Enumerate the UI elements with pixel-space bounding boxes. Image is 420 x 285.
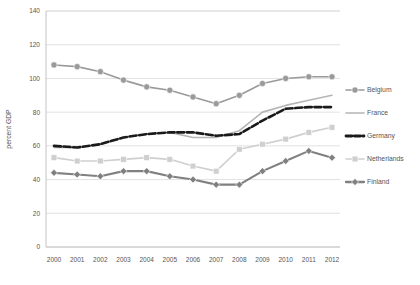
x-tick-label-2000: 2000 xyxy=(47,256,62,263)
series-germany xyxy=(54,107,332,147)
legend-marker-netherlands xyxy=(352,156,358,162)
data-point-netherlands-2010 xyxy=(283,136,289,142)
legend-item-germany[interactable]: Germany xyxy=(346,132,396,140)
data-point-belgium-2004 xyxy=(144,84,150,90)
x-tick-label-2010: 2010 xyxy=(278,256,293,263)
data-point-belgium-2000 xyxy=(51,62,57,68)
legend-marker-belgium xyxy=(352,87,358,93)
data-point-finland-2000 xyxy=(51,169,58,176)
x-tick-label-2007: 2007 xyxy=(209,256,224,263)
x-tick-label-2012: 2012 xyxy=(325,256,340,263)
series-belgium xyxy=(51,62,335,107)
y-tick-label-140: 140 xyxy=(29,7,40,14)
x-tick-label-2001: 2001 xyxy=(70,256,85,263)
y-tick-label-120: 120 xyxy=(29,41,40,48)
data-point-belgium-2006 xyxy=(190,94,196,100)
data-point-netherlands-2000 xyxy=(51,155,57,161)
data-point-netherlands-2004 xyxy=(144,155,150,161)
legend-label-finland: Finland xyxy=(367,178,390,185)
x-tick-label-2008: 2008 xyxy=(232,256,247,263)
series-line-france xyxy=(54,95,332,147)
x-tick-label-2004: 2004 xyxy=(139,256,154,263)
data-point-belgium-2007 xyxy=(213,101,219,107)
data-point-finland-2010 xyxy=(282,158,289,165)
data-point-belgium-2001 xyxy=(74,64,80,70)
x-tick-label-2006: 2006 xyxy=(186,256,201,263)
data-point-finland-2011 xyxy=(305,147,312,154)
data-point-netherlands-2009 xyxy=(260,141,266,147)
legend-label-france: France xyxy=(367,109,388,116)
data-point-finland-2001 xyxy=(74,171,81,178)
data-point-finland-2012 xyxy=(329,154,336,161)
series-france xyxy=(54,95,332,147)
data-point-belgium-2012 xyxy=(329,74,335,80)
legend-item-france[interactable]: France xyxy=(346,109,388,116)
data-point-netherlands-2006 xyxy=(190,163,196,169)
y-tick-label-100: 100 xyxy=(29,75,40,82)
line-chart: 0204060801001201402000200120022003200420… xyxy=(0,0,420,285)
data-point-belgium-2010 xyxy=(283,75,289,81)
y-tick-label-60: 60 xyxy=(33,142,41,149)
x-tick-label-2011: 2011 xyxy=(302,256,316,263)
legend-label-germany: Germany xyxy=(367,132,396,140)
data-point-belgium-2005 xyxy=(167,87,173,93)
y-tick-label-0: 0 xyxy=(36,243,40,250)
data-point-netherlands-2011 xyxy=(306,129,312,135)
x-tick-label-2005: 2005 xyxy=(163,256,178,263)
chart-container: 0204060801001201402000200120022003200420… xyxy=(0,0,420,285)
y-tick-label-20: 20 xyxy=(33,210,41,217)
legend-label-belgium: Belgium xyxy=(367,86,392,94)
y-tick-label-40: 40 xyxy=(33,176,41,183)
data-point-finland-2005 xyxy=(166,173,173,180)
legend-label-netherlands: Netherlands xyxy=(367,155,404,162)
data-point-netherlands-2001 xyxy=(74,158,80,164)
data-point-finland-2002 xyxy=(97,173,104,180)
x-tick-label-2002: 2002 xyxy=(93,256,108,263)
x-tick-label-2003: 2003 xyxy=(116,256,131,263)
data-point-netherlands-2003 xyxy=(121,156,127,162)
data-point-netherlands-2012 xyxy=(329,124,335,130)
data-point-belgium-2002 xyxy=(97,69,103,75)
data-point-belgium-2003 xyxy=(120,77,126,83)
data-point-finland-2007 xyxy=(213,181,220,188)
data-point-finland-2003 xyxy=(120,168,127,175)
legend-item-belgium[interactable]: Belgium xyxy=(346,86,392,94)
legend-item-finland[interactable]: Finland xyxy=(346,178,390,185)
data-point-belgium-2009 xyxy=(259,80,265,86)
x-tick-label-2009: 2009 xyxy=(255,256,270,263)
data-point-finland-2006 xyxy=(190,176,197,183)
legend-marker-finland xyxy=(352,179,359,186)
y-axis-title: percent GDP xyxy=(5,109,13,149)
series-line-germany xyxy=(54,107,332,147)
data-point-belgium-2011 xyxy=(306,74,312,80)
data-point-netherlands-2007 xyxy=(213,168,219,174)
data-point-netherlands-2008 xyxy=(236,146,242,152)
y-tick-label-80: 80 xyxy=(33,109,41,116)
data-point-finland-2004 xyxy=(143,168,150,175)
legend-item-netherlands[interactable]: Netherlands xyxy=(346,155,404,162)
data-point-belgium-2008 xyxy=(236,92,242,98)
data-point-netherlands-2002 xyxy=(97,158,103,164)
data-point-netherlands-2005 xyxy=(167,156,173,162)
